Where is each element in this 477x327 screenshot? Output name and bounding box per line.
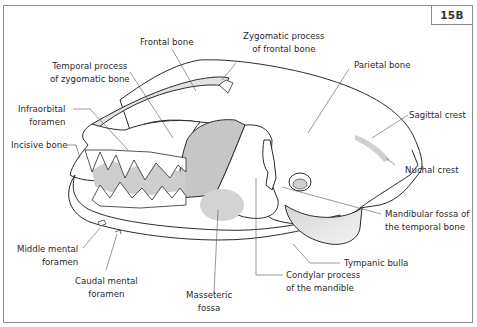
label-tympanic-bulla: Tympanic bulla (344, 257, 408, 270)
label-parietal-bone: Parietal bone (354, 59, 410, 72)
caudal-mental-foramen-mark (115, 230, 121, 234)
label-masseteric-fossa: Masseteric fossa (186, 289, 232, 314)
masseteric-fossa-shade (200, 189, 244, 221)
label-frontal-bone: Frontal bone (140, 36, 194, 49)
label-mandibular-fossa: Mandibular fossa of the temporal bone (385, 208, 469, 233)
label-sagittal-crest: Sagittal crest (409, 109, 466, 122)
label-infraorbital-foramen: Infraorbital foramen (18, 103, 65, 128)
label-temporal-process-zygomatic: Temporal process of zygomatic bone (50, 60, 130, 85)
label-incisive-bone: Incisive bone (11, 139, 68, 152)
label-caudal-mental-foramen: Caudal mental foramen (75, 275, 138, 300)
label-nuchal-crest: Nuchal crest (405, 164, 459, 177)
label-middle-mental-foramen: Middle mental foramen (17, 243, 78, 268)
acoustic-meatus-inner (293, 179, 307, 189)
label-condylar-process: Condylar process of the mandible (286, 269, 360, 294)
label-zygomatic-process-frontal: Zygomatic process of frontal bone (243, 30, 325, 55)
